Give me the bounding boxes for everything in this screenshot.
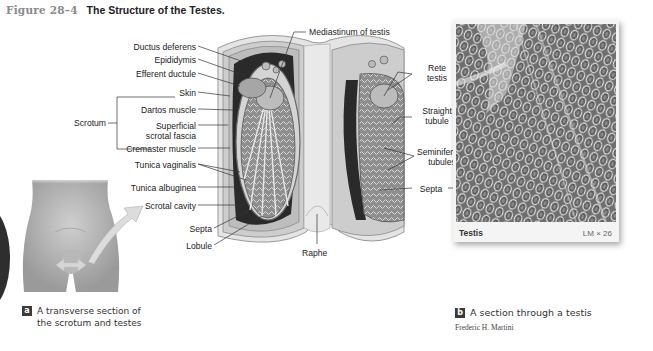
label-skin: Skin xyxy=(179,88,196,98)
histology-photo-frame: Testis LM × 26 xyxy=(453,20,619,242)
body-illustration xyxy=(20,176,143,292)
label-mediastinum: Mediastinum of testis xyxy=(309,27,390,37)
label-dartos-muscle: Dartos muscle xyxy=(141,105,196,115)
label-tunica-albuginea: Tunica albuginea xyxy=(131,183,196,193)
label-ductus-deferens: Ductus deferens xyxy=(133,42,196,52)
panel-a-caption: aA transverse section of the scrotum and… xyxy=(22,305,141,329)
photo-credit: Frederic H. Martini xyxy=(455,323,514,332)
magnification: LM × 26 xyxy=(583,229,612,238)
panel-b-badge: b xyxy=(455,308,465,318)
label-epididymis: Epididymis xyxy=(154,55,196,65)
scrotum-cross-section xyxy=(218,36,404,243)
label-scrotal-cavity: Scrotal cavity xyxy=(145,201,196,211)
panel-a-badge: a xyxy=(22,306,32,316)
caption-b-text: A section through a testis xyxy=(470,307,592,318)
label-raphe: Raphe xyxy=(302,248,327,258)
photo-label: Testis xyxy=(459,228,483,238)
label-septa-left: Septa xyxy=(190,224,212,234)
edge-circle xyxy=(0,208,10,308)
caption-a-line1: A transverse section of xyxy=(37,306,141,316)
label-scrotum: Scrotum xyxy=(74,118,106,128)
label-septa-right: Septa xyxy=(414,184,448,194)
label-scrotal-fascia: scrotal fascia xyxy=(146,131,196,141)
label-efferent-ductule: Efferent ductule xyxy=(136,69,196,79)
histology-micrograph xyxy=(456,24,616,222)
label-superficial: Superficial xyxy=(156,121,196,131)
label-cremaster-muscle: Cremaster muscle xyxy=(126,144,196,154)
caption-a-line2: the scrotum and testes xyxy=(37,318,141,328)
label-lobule: Lobule xyxy=(186,241,212,251)
panel-b-caption: bA section through a testis xyxy=(455,307,592,319)
label-tunica-vaginalis: Tunica vaginalis xyxy=(135,160,196,170)
